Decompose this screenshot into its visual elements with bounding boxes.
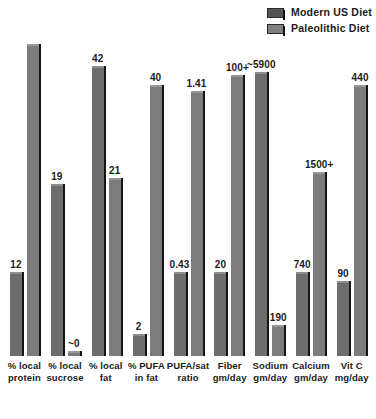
x-axis-label-line: gm/day [209, 372, 250, 384]
bar-paleo[interactable]: 40 [149, 44, 163, 356]
bar-modern[interactable]: 90 [336, 44, 350, 356]
bar-modern[interactable]: 12 [9, 44, 23, 356]
bar-rect: 2 [133, 334, 145, 356]
bar-group: 4221 [86, 44, 127, 356]
x-axis-label-line: gm/day [291, 372, 332, 384]
x-axis-label: % localprotein [4, 360, 45, 416]
bar-paleo[interactable]: 1500+ [312, 44, 326, 356]
bar-group: 0.431.41 [168, 44, 209, 356]
x-axis-label-line: in fat [126, 372, 167, 384]
chart-legend: Modern US Diet Paleolithic Diet [267, 6, 372, 35]
bar-paleo[interactable]: 190 [271, 44, 285, 356]
x-axis-label-line: Sodium [250, 360, 291, 372]
plot-area: 1219~042212400.431.4120100+~590019074015… [4, 44, 372, 356]
bar-value-label: 1.41 [187, 78, 207, 89]
bar-rect: 42 [92, 66, 104, 356]
x-axis-label: PUFA/satratio [167, 360, 210, 416]
bar-rect: 19 [51, 184, 63, 356]
bar-value-label: 1500+ [305, 159, 334, 170]
bar-rect: 0.43 [174, 272, 186, 356]
bar-rect: 40 [150, 85, 162, 356]
x-axis-labels: % localprotein% localsucrose% localfat% … [4, 360, 372, 416]
legend-item-modern-us-diet: Modern US Diet [267, 6, 372, 19]
legend-label-modern: Modern US Diet [291, 7, 372, 18]
bar-value-label: 40 [150, 72, 161, 83]
bar-rect: ~5900 [255, 72, 267, 356]
bar-rect: 90 [337, 281, 349, 356]
x-axis-label-line: % local [45, 360, 86, 372]
bar-value-label: 190 [270, 312, 287, 323]
bar-modern[interactable]: ~5900 [254, 44, 268, 356]
x-axis-label-line: Fiber [209, 360, 250, 372]
bar-modern[interactable]: 42 [91, 44, 105, 356]
bar-rect: 440 [354, 85, 366, 356]
bar-modern[interactable]: 2 [132, 44, 146, 356]
bar-modern[interactable]: 20 [213, 44, 227, 356]
bar-chart: Modern US Diet Paleolithic Diet 1219~042… [0, 0, 376, 419]
bar-paleo[interactable]: 440 [353, 44, 367, 356]
x-axis-label: % localfat [85, 360, 126, 416]
bar-rect: 21 [109, 178, 121, 356]
bar-paleo[interactable]: 100+ [230, 44, 244, 356]
bar-paleo[interactable]: 1.41 [190, 44, 204, 356]
x-axis-label-line: fat [85, 372, 126, 384]
x-axis-label: Sodiumgm/day [250, 360, 291, 416]
bar-rect: 740 [296, 272, 308, 356]
bar-rect: 20 [214, 272, 226, 356]
bar-rect: 1.41 [191, 91, 203, 356]
bar-value-label: 740 [294, 259, 311, 270]
bar-group: 12 [4, 44, 45, 356]
x-axis-label-line: mg/day [331, 372, 372, 384]
x-axis-label-line: gm/day [250, 372, 291, 384]
bar-group: ~5900190 [249, 44, 290, 356]
bar-value-label: 440 [352, 72, 369, 83]
bar-rect: 190 [272, 325, 284, 356]
x-axis-label-line: protein [4, 372, 45, 384]
legend-swatch-paleo-icon [267, 24, 284, 34]
bar-value-label: 19 [51, 171, 62, 182]
bar-value-label: 21 [109, 165, 120, 176]
legend-label-paleo: Paleolithic Diet [291, 23, 369, 34]
bar-value-label: 2 [136, 321, 142, 332]
x-axis-label: % PUFAin fat [126, 360, 167, 416]
bar-rect: 1500+ [313, 172, 325, 356]
bar-group: 20100+ [208, 44, 249, 356]
bar-modern[interactable]: 0.43 [173, 44, 187, 356]
bar-rect: ~0 [68, 351, 80, 356]
bar-rect: 100+ [231, 75, 243, 356]
bar-value-label: 90 [337, 268, 348, 279]
bar-modern[interactable]: 740 [295, 44, 309, 356]
bar-paleo[interactable]: ~0 [67, 44, 81, 356]
bar-value-label: 12 [10, 259, 21, 270]
bar-value-label: 100+ [226, 62, 249, 73]
x-axis-label-line: Vit C [331, 360, 372, 372]
bar-value-label: 20 [215, 259, 226, 270]
bar-group: 90440 [331, 44, 372, 356]
bar-group: 19~0 [45, 44, 86, 356]
bar-modern[interactable]: 19 [50, 44, 64, 356]
bar-paleo[interactable]: 21 [108, 44, 122, 356]
x-axis-label-line: sucrose [45, 372, 86, 384]
x-axis-label: % localsucrose [45, 360, 86, 416]
x-axis-label-line: % local [85, 360, 126, 372]
bar-group: 240 [127, 44, 168, 356]
legend-swatch-modern-icon [267, 8, 284, 18]
x-axis-label: Fibergm/day [209, 360, 250, 416]
bar-rect: 12 [10, 272, 22, 356]
bar-value-label: 0.43 [170, 259, 190, 270]
legend-item-paleolithic-diet: Paleolithic Diet [267, 22, 372, 35]
x-axis-label-line: ratio [167, 372, 210, 384]
x-axis-label-line: % local [4, 360, 45, 372]
bar-value-label: 42 [92, 53, 103, 64]
x-axis-label-line: PUFA/sat [167, 360, 210, 372]
x-axis-label-line: % PUFA [126, 360, 167, 372]
x-axis-label: Vit Cmg/day [331, 360, 372, 416]
x-axis-label: Calciumgm/day [291, 360, 332, 416]
bar-value-label: ~0 [68, 338, 80, 349]
x-axis-label-line: Calcium [291, 360, 332, 372]
bar-group: 7401500+ [290, 44, 331, 356]
bar-paleo[interactable] [26, 44, 40, 356]
bar-rect [27, 44, 39, 356]
